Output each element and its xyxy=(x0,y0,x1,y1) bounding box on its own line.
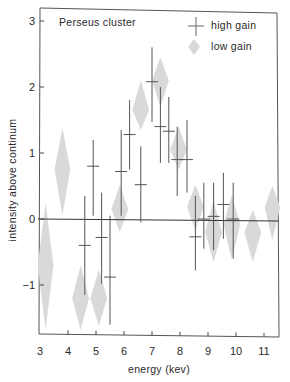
x-tick-label: 11 xyxy=(258,345,269,357)
high-gain-point xyxy=(96,193,108,284)
low-gain-series xyxy=(38,57,280,330)
right-axis-line xyxy=(277,13,279,337)
x-tick-label: 10 xyxy=(230,345,242,357)
zero-line xyxy=(38,219,279,221)
high-gain-point xyxy=(87,140,99,216)
x-tick-label: 7 xyxy=(149,345,155,357)
x-tick-label: 3 xyxy=(37,345,43,357)
y-axis-line xyxy=(39,8,40,334)
y-tick-label: 3 xyxy=(29,15,35,27)
x-axis-line xyxy=(39,334,279,337)
low-gain-diamond xyxy=(244,210,261,262)
high-gain-point xyxy=(135,146,147,222)
x-tick-label: 6 xyxy=(121,345,127,357)
low-gain-diamond xyxy=(111,185,128,233)
legend-high-gain-label: high gain xyxy=(211,19,256,31)
x-tick-label: 8 xyxy=(177,345,183,357)
spectrum-chart: 34567891011 3210−1 Perseus cluster high … xyxy=(0,0,290,382)
legend-low-gain-label: low gain xyxy=(211,40,252,52)
x-tick-label: 4 xyxy=(65,345,71,357)
legend: high gain low gain xyxy=(188,17,256,55)
y-tick-label: 2 xyxy=(29,81,35,93)
low-gain-diamond xyxy=(38,203,54,330)
y-tick-label: 0 xyxy=(29,213,35,225)
x-tick-label: 5 xyxy=(93,345,99,357)
low-gain-diamond xyxy=(170,127,187,170)
zero-line-path xyxy=(38,219,279,221)
chart-annotation: Perseus cluster xyxy=(59,16,136,28)
x-axis-title: energy (kev) xyxy=(128,363,190,375)
low-gain-diamond xyxy=(72,265,89,330)
high-gain-point xyxy=(104,216,116,325)
y-tick-label: 1 xyxy=(29,147,35,159)
low-gain-diamond xyxy=(132,80,149,129)
legend-low-gain-marker xyxy=(188,39,200,55)
y-tick-label: −1 xyxy=(22,279,35,291)
top-axis-line xyxy=(40,8,277,13)
high-gain-point xyxy=(154,87,166,163)
legend-high-gain-marker xyxy=(188,17,204,36)
y-axis-title: intensity above continum xyxy=(6,119,18,242)
low-gain-diamond xyxy=(90,270,107,326)
low-gain-diamond xyxy=(55,128,71,215)
x-tick-label: 9 xyxy=(205,345,211,357)
